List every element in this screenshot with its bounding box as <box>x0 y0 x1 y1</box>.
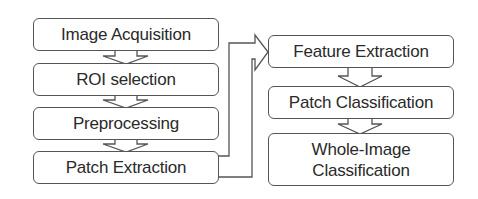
step-feature-extraction: Feature Extraction <box>268 35 454 68</box>
step-label: Feature Extraction <box>293 41 428 62</box>
arrow-down-icon <box>338 67 382 87</box>
step-label-line1: Whole-Image <box>312 139 411 160</box>
arrow-down-icon <box>338 118 382 134</box>
flowchart-canvas: Image Acquisition ROI selection Preproce… <box>0 0 478 199</box>
step-label: Patch Extraction <box>66 157 187 178</box>
step-label-line2: Classification <box>312 160 409 181</box>
arrow-down-icon <box>103 50 148 64</box>
step-label: Image Acquisition <box>61 24 191 45</box>
step-patch-extraction: Patch Extraction <box>33 151 219 184</box>
step-patch-classification: Patch Classification <box>268 86 454 119</box>
step-image-acquisition: Image Acquisition <box>33 18 219 51</box>
step-label: ROI selection <box>76 69 175 90</box>
step-preprocessing: Preprocessing <box>33 107 219 140</box>
connector-arrow-icon <box>218 35 268 177</box>
step-whole-image-classification: Whole-Image Classification <box>268 133 454 186</box>
step-label: Patch Classification <box>289 92 433 113</box>
step-label: Preprocessing <box>73 113 179 134</box>
step-roi-selection: ROI selection <box>33 63 219 96</box>
